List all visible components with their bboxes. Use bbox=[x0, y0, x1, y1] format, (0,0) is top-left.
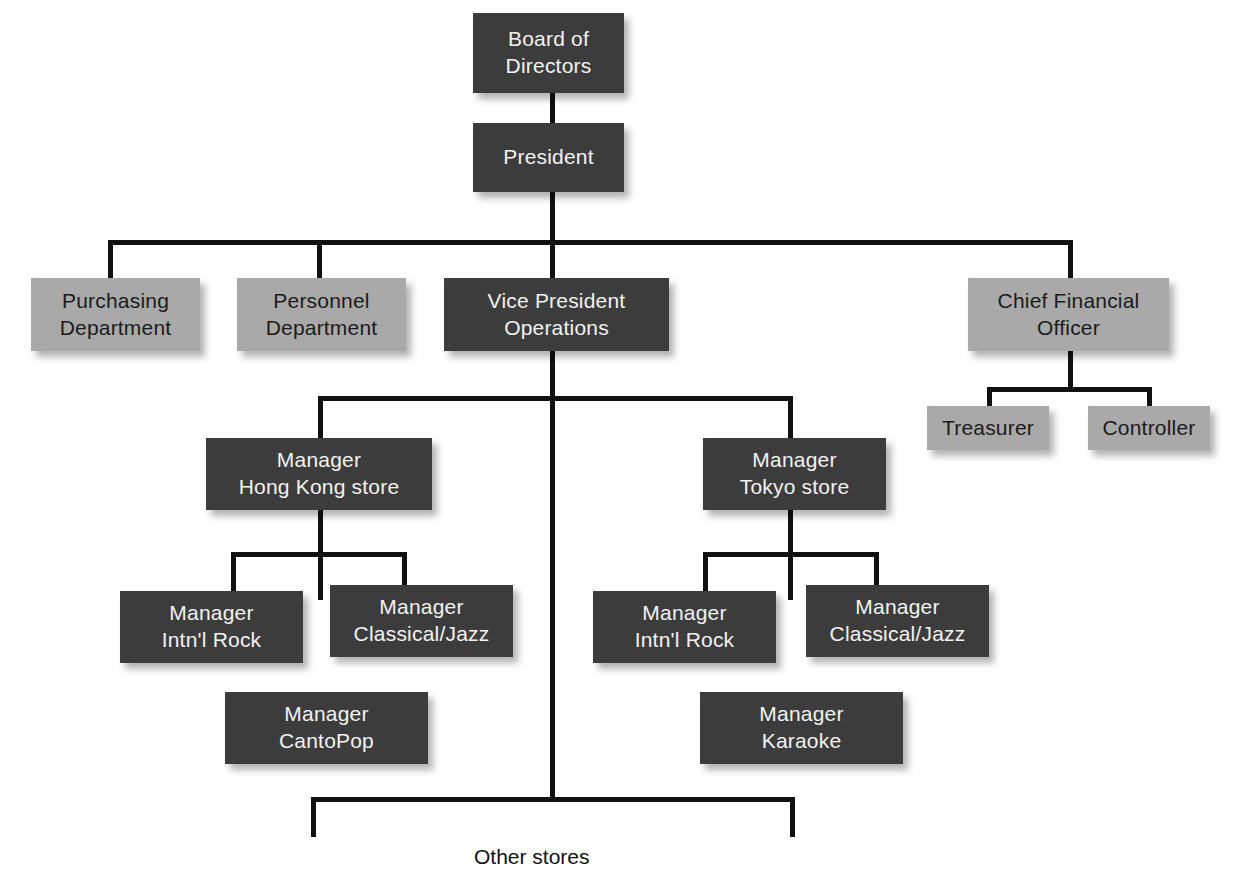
connector-vp-operations-spine bbox=[550, 351, 555, 801]
connector-tokyo-bus bbox=[703, 552, 879, 557]
node-label: Treasurer bbox=[942, 415, 1034, 442]
node-label: Manager Intn'l Rock bbox=[635, 600, 735, 654]
connector-drop-personnel bbox=[317, 240, 322, 280]
connector-drop-cfo bbox=[1068, 240, 1073, 280]
node-controller[interactable]: Controller bbox=[1088, 406, 1210, 450]
label-other-stores: Other stores bbox=[474, 845, 590, 869]
node-label: Board of Directors bbox=[506, 26, 592, 80]
node-personnel-department[interactable]: Personnel Department bbox=[237, 278, 406, 351]
node-label: Manager Tokyo store bbox=[740, 447, 850, 501]
node-purchasing-department[interactable]: Purchasing Department bbox=[31, 278, 200, 351]
other-stores-text: Other stores bbox=[474, 845, 590, 868]
node-manager-hk-classical-jazz[interactable]: Manager Classical/Jazz bbox=[330, 585, 513, 657]
node-label: Controller bbox=[1102, 415, 1195, 442]
node-manager-tk-intnl-rock[interactable]: Manager Intn'l Rock bbox=[593, 591, 776, 663]
node-manager-tokyo-store[interactable]: Manager Tokyo store bbox=[703, 438, 886, 510]
node-board-of-directors[interactable]: Board of Directors bbox=[473, 13, 624, 93]
node-manager-hong-kong-store[interactable]: Manager Hong Kong store bbox=[206, 438, 432, 510]
node-manager-hk-cantopop[interactable]: Manager CantoPop bbox=[225, 692, 428, 764]
connector-drop-controller bbox=[1147, 387, 1152, 408]
connector-drop-tokyo bbox=[788, 396, 793, 441]
node-label: Manager CantoPop bbox=[279, 701, 374, 755]
node-label: Purchasing Department bbox=[60, 288, 172, 342]
node-manager-hk-intnl-rock[interactable]: Manager Intn'l Rock bbox=[120, 591, 303, 663]
node-label: Chief Financial Officer bbox=[998, 288, 1140, 342]
node-label: Manager Classical/Jazz bbox=[830, 594, 966, 648]
connector-other-stores-bus bbox=[311, 797, 795, 802]
node-label: Manager Classical/Jazz bbox=[354, 594, 490, 648]
node-vice-president-operations[interactable]: Vice President Operations bbox=[444, 278, 669, 351]
node-chief-financial-officer[interactable]: Chief Financial Officer bbox=[968, 278, 1169, 351]
connector-hong-kong-bus bbox=[231, 552, 407, 557]
node-label: Manager Karaoke bbox=[759, 701, 843, 755]
connector-drop-treasurer bbox=[987, 387, 992, 408]
node-president[interactable]: President bbox=[473, 123, 624, 192]
node-label: President bbox=[503, 144, 594, 171]
node-label: Manager Intn'l Rock bbox=[162, 600, 262, 654]
connector-other-stores-right-stub bbox=[790, 797, 795, 837]
node-label: Personnel Department bbox=[266, 288, 378, 342]
org-chart-canvas: Board of Directors President Purchasing … bbox=[0, 0, 1253, 893]
connector-board-to-president bbox=[550, 93, 555, 123]
connector-level2-bus bbox=[108, 240, 1073, 245]
node-manager-tk-karaoke[interactable]: Manager Karaoke bbox=[700, 692, 903, 764]
connector-president-down bbox=[550, 192, 555, 243]
node-treasurer[interactable]: Treasurer bbox=[927, 406, 1049, 450]
connector-drop-hong-kong bbox=[318, 396, 323, 441]
connector-drop-hk-rock bbox=[231, 552, 236, 592]
connector-drop-tk-rock bbox=[703, 552, 708, 592]
connector-stores-bus bbox=[318, 396, 788, 401]
node-label: Manager Hong Kong store bbox=[239, 447, 400, 501]
node-label: Vice President Operations bbox=[488, 288, 626, 342]
node-manager-tk-classical-jazz[interactable]: Manager Classical/Jazz bbox=[806, 585, 989, 657]
connector-other-stores-left-stub bbox=[311, 797, 316, 837]
connector-drop-vp-operations bbox=[550, 240, 555, 280]
connector-cfo-down bbox=[1068, 351, 1073, 390]
connector-cfo-bus bbox=[987, 387, 1152, 392]
connector-drop-purchasing bbox=[108, 240, 113, 280]
